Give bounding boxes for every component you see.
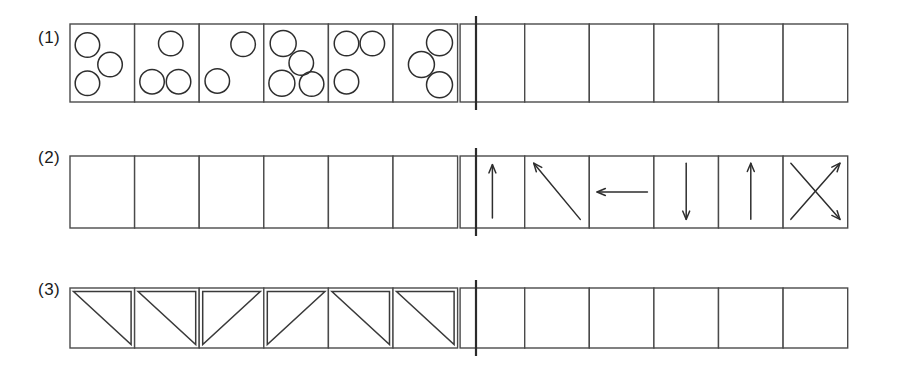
- worksheet-row-1: (1): [0, 0, 917, 120]
- grid-cell-r3-c8[interactable]: [525, 288, 590, 348]
- cell-group: [654, 288, 719, 348]
- grid-cell-r2-c4[interactable]: [264, 156, 329, 228]
- cell-group: [719, 288, 784, 348]
- grid-cell-r1-c9[interactable]: [589, 24, 654, 102]
- row-3-grid: [0, 272, 917, 377]
- cell-group: [393, 156, 458, 228]
- row-2-grid: [0, 140, 917, 250]
- grid-cell-r2-c3[interactable]: [199, 156, 264, 228]
- grid-cell-r3-c10[interactable]: [654, 288, 719, 348]
- cell-group: [328, 156, 393, 228]
- cell-group: [654, 24, 719, 102]
- cell-group: [135, 156, 200, 228]
- cell-group: [525, 288, 590, 348]
- grid-cell-r3-c12[interactable]: [783, 288, 848, 348]
- cell-group: [783, 288, 848, 348]
- grid-cell-r3-c9[interactable]: [589, 288, 654, 348]
- cell-group: [460, 24, 525, 102]
- worksheet-row-2: (2): [0, 140, 917, 250]
- cell-group: [460, 288, 525, 348]
- grid-cell-r3-c7[interactable]: [460, 288, 525, 348]
- grid-cell-r2-c5[interactable]: [328, 156, 393, 228]
- cell-group: [589, 24, 654, 102]
- grid-cell-r1-c8[interactable]: [525, 24, 590, 102]
- cell-group: [525, 24, 590, 102]
- row-1-grid: [0, 0, 917, 120]
- cell-group: [264, 156, 329, 228]
- worksheet-canvas: (1) (2) (3): [0, 0, 917, 379]
- cell-group: [783, 24, 848, 102]
- grid-cell-r2-c2[interactable]: [135, 156, 200, 228]
- grid-cell-r2-c1[interactable]: [70, 156, 135, 228]
- cell-group: [393, 24, 458, 102]
- worksheet-row-3: (3): [0, 272, 917, 377]
- grid-cell-r3-c11[interactable]: [719, 288, 784, 348]
- cell-group: [719, 24, 784, 102]
- cell-group: [199, 156, 264, 228]
- grid-cell-r1-c11[interactable]: [719, 24, 784, 102]
- grid-cell-r1-c6[interactable]: [393, 24, 458, 102]
- cell-group: [589, 288, 654, 348]
- grid-cell-r1-c10[interactable]: [654, 24, 719, 102]
- cell-group: [70, 156, 135, 228]
- grid-cell-r1-c12[interactable]: [783, 24, 848, 102]
- grid-cell-r2-c6[interactable]: [393, 156, 458, 228]
- grid-cell-r1-c7[interactable]: [460, 24, 525, 102]
